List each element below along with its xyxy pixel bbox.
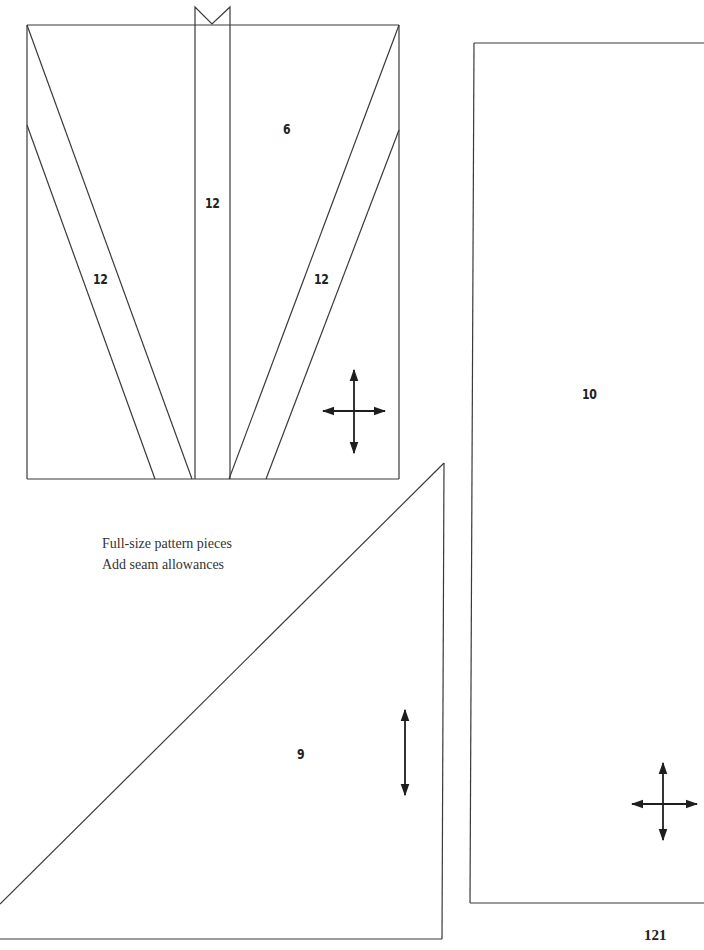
grainline-cross-icon-piece-10 (632, 763, 697, 840)
piece-12-left-strip (27, 25, 192, 479)
piece-12-center-strip (195, 7, 230, 479)
piece-10-label: 10 (582, 386, 596, 402)
pattern-pieces-drawing (0, 0, 704, 950)
piece-6-label: 6 (283, 121, 290, 137)
page-number: 121 (644, 927, 667, 944)
piece-9-outline (0, 463, 444, 939)
piece-12-left-label: 12 (93, 271, 107, 287)
piece-9-label: 9 (297, 746, 304, 762)
piece-10-outline (470, 43, 704, 903)
note-seam-allowances: Add seam allowances (102, 557, 224, 573)
piece-12-right-label: 12 (314, 271, 328, 287)
note-full-size: Full-size pattern pieces (102, 536, 232, 552)
piece-12-center-label: 12 (205, 195, 219, 211)
grainline-cross-icon-piece-6 (323, 370, 385, 453)
